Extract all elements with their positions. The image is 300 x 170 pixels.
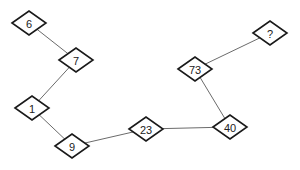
node-6: 6 [12,11,46,35]
node-label: 1 [29,103,35,115]
node-1: 1 [15,96,49,120]
node-label: 73 [189,64,201,76]
node-9: 9 [55,134,89,158]
node-23: 23 [129,117,163,141]
node-40: 40 [213,115,247,139]
node-label: 9 [69,141,75,153]
node-7: 7 [59,48,93,72]
node-label: ? [267,28,273,40]
node-label: 7 [73,55,79,67]
edge-73-unknown [195,33,270,69]
node-73: 73 [178,57,212,81]
node-label: 23 [140,124,152,136]
number-sequence-diagram: 6719234073? [0,0,300,170]
node-unknown: ? [253,21,287,45]
node-label: 6 [26,18,32,30]
node-label: 40 [224,122,236,134]
